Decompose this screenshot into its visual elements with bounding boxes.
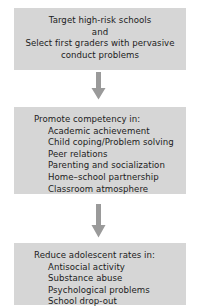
flow-node-promote: Promote competency in: Academic achievem… bbox=[14, 107, 186, 194]
node-promote-item-4: Parenting and socialization bbox=[14, 160, 186, 172]
arrow-down-icon-1 bbox=[91, 72, 106, 100]
flowchart-diagram: Target high-risk schools and Select firs… bbox=[0, 0, 198, 307]
flow-node-target: Target high-risk schools and Select firs… bbox=[14, 8, 186, 70]
node-promote-item-2: Child coping/Problem solving bbox=[14, 137, 186, 149]
node-target-line-1: Target high-risk schools bbox=[14, 15, 186, 27]
node-reduce-item-2: Substance abuse bbox=[14, 273, 186, 285]
node-reduce-item-4: School drop-out bbox=[14, 296, 186, 307]
node-target-line-3: Select first graders with pervasive bbox=[14, 38, 186, 50]
node-promote-item-5: Home–school partnership bbox=[14, 172, 186, 184]
node-promote-item-3: Peer relations bbox=[14, 149, 186, 161]
node-promote-item-1: Academic achievement bbox=[14, 126, 186, 138]
node-target-line-4: conduct problems bbox=[14, 50, 186, 62]
flow-node-reduce: Reduce adolescent rates in: Antisocial a… bbox=[14, 243, 186, 305]
node-promote-item-6: Classroom atmosphere bbox=[14, 184, 186, 196]
node-reduce-item-3: Psychological problems bbox=[14, 285, 186, 297]
node-target-line-2: and bbox=[14, 27, 186, 39]
arrow-down-icon-2 bbox=[91, 204, 106, 238]
node-promote-heading: Promote competency in: bbox=[14, 114, 186, 126]
node-reduce-heading: Reduce adolescent rates in: bbox=[14, 250, 186, 262]
node-reduce-item-1: Antisocial activity bbox=[14, 262, 186, 274]
